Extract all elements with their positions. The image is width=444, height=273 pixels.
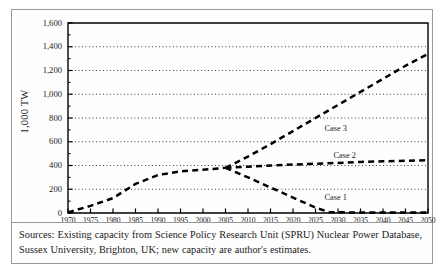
axis-frame xyxy=(68,23,428,213)
y-axis-tick-label: 1,600 xyxy=(22,19,62,28)
y-axis-tick-label: 1,400 xyxy=(22,42,62,51)
y-axis-tick-label: 0 xyxy=(22,209,62,218)
figure-caption: Sources: Existing capacity from Science … xyxy=(12,222,434,264)
chart-plot-area: 1,000 TW 02004006008001,0001,2001,4001,6… xyxy=(12,10,434,222)
series-annotation-label: Case 2 xyxy=(334,152,357,160)
chart-svg xyxy=(12,10,434,222)
caption-text: Sources: Existing capacity from Science … xyxy=(19,227,427,257)
series-line xyxy=(226,168,429,213)
series-line xyxy=(68,168,226,213)
y-axis-tick-label: 1,200 xyxy=(22,66,62,75)
y-axis-tick-label: 200 xyxy=(22,185,62,194)
y-axis-tick-label: 1,000 xyxy=(22,90,62,99)
series-line xyxy=(226,160,429,168)
y-axis-tick-label: 800 xyxy=(22,114,62,123)
series-line xyxy=(226,54,429,168)
series-annotation-label: Case 1 xyxy=(325,194,348,202)
series-annotation-label: Case 3 xyxy=(325,125,348,133)
figure-container: 1,000 TW 02004006008001,0001,2001,4001,6… xyxy=(11,9,433,264)
y-axis-tick-label: 400 xyxy=(22,161,62,170)
y-axis-tick-label: 600 xyxy=(22,137,62,146)
